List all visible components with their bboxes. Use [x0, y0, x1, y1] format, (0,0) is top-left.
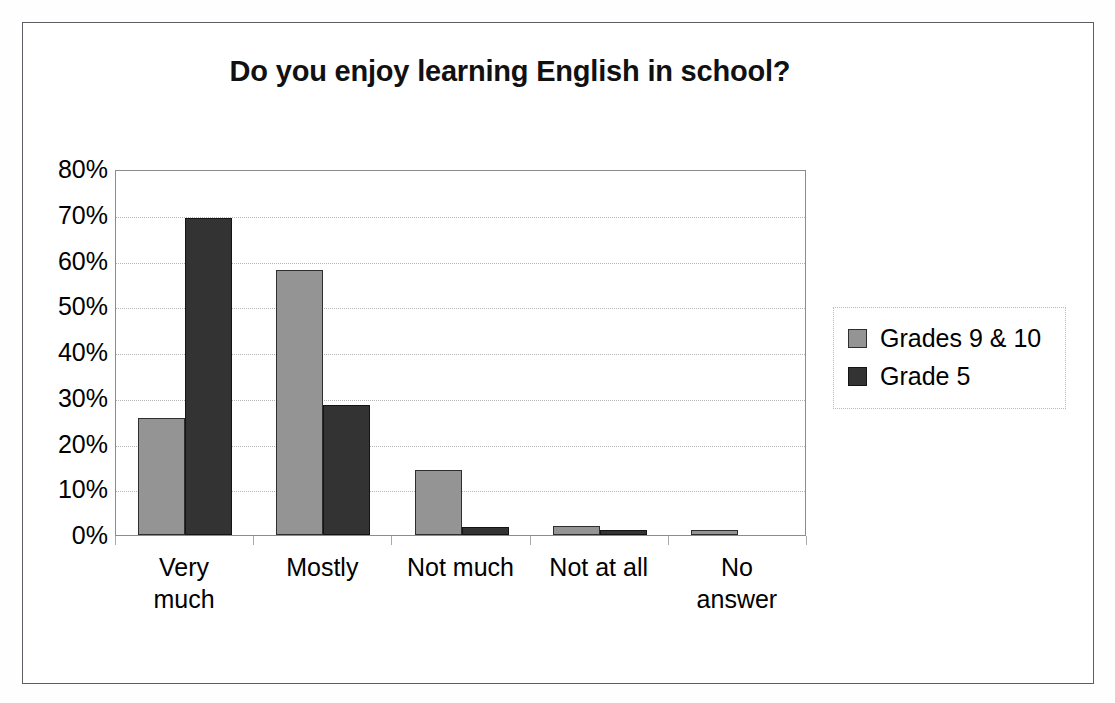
- x-axis-label-line: Mostly: [253, 551, 391, 583]
- x-axis-tick: [253, 536, 254, 545]
- legend-item[interactable]: Grades 9 & 10: [848, 319, 1051, 357]
- legend-item[interactable]: Grade 5: [848, 357, 1051, 395]
- y-axis-tick-label: 0%: [24, 523, 108, 548]
- x-axis-tick: [530, 536, 531, 545]
- x-axis-label-line: Not much: [391, 551, 529, 583]
- chart-title: Do you enjoy learning English in school?: [60, 55, 960, 88]
- x-axis-tick: [115, 536, 116, 545]
- x-axis-tick: [391, 536, 392, 545]
- bar-not-much-grade-5: [462, 527, 509, 535]
- chart-legend: Grades 9 & 10Grade 5: [833, 307, 1066, 409]
- y-axis-tick-label: 40%: [24, 340, 108, 365]
- x-axis-label-line: answer: [668, 583, 806, 615]
- bar-very-much-grades-9-10: [138, 418, 185, 535]
- x-axis-tick: [668, 536, 669, 545]
- x-axis-label: Not much: [391, 551, 529, 583]
- x-axis-label: Mostly: [253, 551, 391, 583]
- bar-mostly-grades-9-10: [276, 270, 323, 535]
- y-axis-tick-label: 20%: [24, 432, 108, 457]
- x-axis-label: Noanswer: [668, 551, 806, 615]
- x-axis-label: Verymuch: [115, 551, 253, 615]
- bar-not-at-all-grades-9-10: [553, 526, 600, 535]
- bar-mostly-grade-5: [323, 405, 370, 535]
- x-axis-tick: [806, 536, 807, 545]
- x-axis-label-line: much: [115, 583, 253, 615]
- x-axis-label-line: Very: [115, 551, 253, 583]
- legend-swatch-icon: [848, 329, 867, 348]
- legend-swatch-icon: [848, 367, 867, 386]
- bar-no-answer-grades-9-10: [691, 530, 738, 535]
- bar-not-much-grades-9-10: [415, 470, 462, 535]
- x-axis-label: Not at all: [530, 551, 668, 583]
- y-axis-tick-label: 80%: [24, 157, 108, 182]
- y-axis-tick-label: 10%: [24, 477, 108, 502]
- bar-very-much-grade-5: [185, 218, 232, 535]
- y-axis-tick-label: 30%: [24, 386, 108, 411]
- y-axis: 0%10%20%30%40%50%60%70%80%: [22, 170, 108, 536]
- bar-not-at-all-grade-5: [600, 530, 647, 535]
- legend-label: Grades 9 & 10: [880, 326, 1041, 351]
- legend-label: Grade 5: [880, 364, 970, 389]
- scanned-page: Do you enjoy learning English in school?…: [0, 0, 1115, 703]
- x-axis-label-line: No: [668, 551, 806, 583]
- x-axis-label-line: Not at all: [530, 551, 668, 583]
- y-axis-tick-label: 60%: [24, 249, 108, 274]
- y-axis-tick-label: 50%: [24, 294, 108, 319]
- y-axis-tick-label: 70%: [24, 203, 108, 228]
- plot-area: [115, 170, 806, 536]
